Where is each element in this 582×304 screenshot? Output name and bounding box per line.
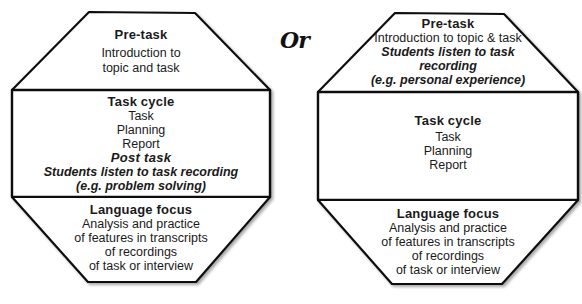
left-pretask-text: Pre-task Introduction to topic and task bbox=[71, 28, 211, 76]
right-taskcycle-step: Task bbox=[318, 130, 578, 144]
right-language-text: Language focus Analysis and practice of … bbox=[318, 207, 578, 277]
right-language-heading: Language focus bbox=[318, 207, 578, 221]
right-language-line: of task or interview bbox=[318, 263, 578, 277]
right-taskcycle-step: Planning bbox=[318, 144, 578, 158]
left-taskcycle-heading: Task cycle bbox=[12, 95, 270, 109]
right-taskcycle-text: Task cycle Task Planning Report bbox=[318, 114, 578, 172]
left-taskcycle-step: Planning bbox=[12, 123, 270, 137]
left-taskcycle-text: Task cycle Task Planning Report Post tas… bbox=[12, 95, 270, 193]
right-pretask-italic-line: recording bbox=[358, 59, 538, 73]
left-language-text: Language focus Analysis and practice of … bbox=[12, 203, 270, 273]
right-pretask-line: Introduction to topic & task bbox=[358, 31, 538, 45]
left-language-heading: Language focus bbox=[12, 203, 270, 217]
or-connector: Or bbox=[280, 27, 309, 53]
right-taskcycle-heading: Task cycle bbox=[318, 114, 578, 128]
right-pretask-italic-line: Students listen to task bbox=[358, 45, 538, 59]
right-language-line: Analysis and practice bbox=[318, 221, 578, 235]
left-pretask-line: topic and task bbox=[71, 61, 211, 76]
left-language-line: Analysis and practice bbox=[12, 217, 270, 231]
left-language-line: of task or interview bbox=[12, 259, 270, 273]
left-taskcycle-step: Task bbox=[12, 109, 270, 123]
left-posttask-line: Students listen to task recording bbox=[12, 165, 270, 179]
left-language-line: of recordings bbox=[12, 245, 270, 259]
left-pretask-heading: Pre-task bbox=[71, 28, 211, 42]
right-language-line: of features in transcripts bbox=[318, 235, 578, 249]
right-language-line: of recordings bbox=[318, 249, 578, 263]
left-taskcycle-step: Report bbox=[12, 137, 270, 151]
left-posttask-heading: Post task bbox=[12, 151, 270, 165]
right-pretask-heading: Pre-task bbox=[358, 17, 538, 31]
right-pretask-text: Pre-task Introduction to topic & task St… bbox=[358, 17, 538, 87]
left-posttask-line: (e.g. problem solving) bbox=[12, 179, 270, 193]
right-pretask-italic-line: (e.g. personal experience) bbox=[358, 73, 538, 87]
right-taskcycle-step: Report bbox=[318, 158, 578, 172]
left-language-line: of features in transcripts bbox=[12, 231, 270, 245]
left-pretask-line: Introduction to bbox=[71, 46, 211, 61]
